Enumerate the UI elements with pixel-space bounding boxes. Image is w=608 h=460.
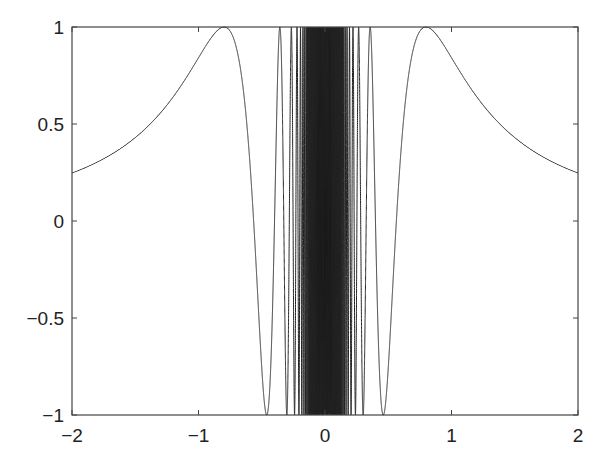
curve-line	[72, 27, 578, 415]
y-tick-label: −1	[42, 405, 64, 426]
y-tick-label: 1	[53, 17, 64, 38]
x-tick-label: 0	[320, 425, 331, 446]
x-tick-label: 1	[446, 425, 457, 446]
y-tick-label: 0	[53, 211, 64, 232]
x-tick-label: −1	[188, 425, 210, 446]
y-tick-label: 0.5	[38, 114, 64, 135]
plot-area	[72, 27, 578, 415]
x-tick-label: −2	[61, 425, 83, 446]
y-tick-label: −0.5	[26, 308, 64, 329]
chart: −2−101210.50−0.5−1	[0, 0, 608, 460]
x-tick-label: 2	[573, 425, 584, 446]
